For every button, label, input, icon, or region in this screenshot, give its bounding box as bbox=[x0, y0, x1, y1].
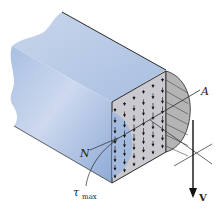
label-tau-sub: max bbox=[82, 193, 97, 201]
shear-force-arrowhead bbox=[189, 188, 197, 198]
label-v: V bbox=[198, 192, 207, 203]
label-tau: τ bbox=[73, 186, 80, 199]
label-a: A bbox=[200, 85, 209, 98]
label-n: N bbox=[79, 147, 90, 160]
beam-diagram: A N τ max V bbox=[0, 0, 223, 211]
